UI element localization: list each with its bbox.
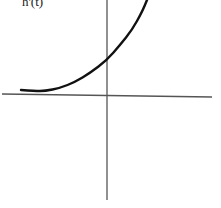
curve-line <box>21 0 147 91</box>
y-axis-label: h'(t) <box>22 0 43 10</box>
plot-area <box>0 0 221 208</box>
